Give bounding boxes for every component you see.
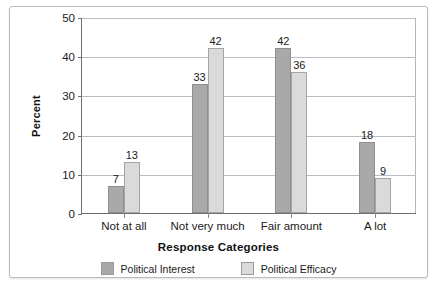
x-axis-title: Response Categories [10, 241, 427, 253]
x-axis-category-label: Not at all [101, 220, 146, 232]
y-axis-tick-label: 0 [69, 208, 75, 220]
y-axis-tick-mark [78, 136, 82, 137]
bar-value-label: 18 [361, 129, 373, 141]
y-axis-tick-mark [78, 214, 82, 215]
y-axis-title: Percent [30, 95, 42, 137]
legend-item[interactable]: Political Efficacy [241, 262, 337, 275]
bar-group: 713Not at all [108, 18, 140, 213]
bar-value-label: 9 [380, 165, 386, 177]
bar[interactable]: 42 [275, 48, 291, 213]
plot-area: 01020304050 713Not at all3342Not very mu… [81, 18, 416, 214]
bar-value-label: 36 [293, 59, 305, 71]
legend-label: Political Efficacy [261, 263, 337, 275]
bar[interactable]: 18 [359, 142, 375, 213]
x-axis-category-label: Not very much [171, 220, 245, 232]
y-axis-tick-mark [78, 175, 82, 176]
x-axis-tick-mark [208, 213, 209, 218]
bar-group: 4236Fair amount [275, 18, 307, 213]
figure-frame: Percent 01020304050 713Not at all3342Not… [9, 6, 428, 278]
x-axis-category-label: A lot [364, 220, 386, 232]
y-axis-tick-mark [78, 96, 82, 97]
legend-item[interactable]: Political Interest [101, 262, 195, 275]
bar[interactable]: 13 [124, 162, 140, 213]
bar[interactable]: 36 [291, 72, 307, 213]
y-axis-tick-label: 20 [62, 130, 75, 142]
y-axis-tick-label: 50 [62, 12, 75, 24]
x-axis-tick-mark [124, 213, 125, 218]
plot-right-border [415, 18, 416, 213]
y-axis-tick-label: 40 [62, 51, 75, 63]
bar-value-label: 13 [126, 149, 138, 161]
legend-swatch [101, 262, 114, 275]
bar[interactable]: 9 [375, 178, 391, 213]
bar[interactable]: 42 [208, 48, 224, 213]
bar[interactable]: 33 [192, 84, 208, 213]
bar-value-label: 42 [210, 35, 222, 47]
y-axis-tick-label: 30 [62, 90, 75, 102]
legend-swatch [241, 262, 254, 275]
bar-value-label: 33 [194, 71, 206, 83]
x-axis-tick-mark [291, 213, 292, 218]
x-axis-tick-mark [375, 213, 376, 218]
bar-group: 3342Not very much [192, 18, 224, 213]
legend-label: Political Interest [121, 263, 195, 275]
bar[interactable]: 7 [108, 186, 124, 213]
y-axis-tick-mark [78, 18, 82, 19]
bar-value-label: 7 [113, 173, 119, 185]
chart-legend: Political InterestPolitical Efficacy [10, 262, 427, 275]
x-axis-category-label: Fair amount [261, 220, 322, 232]
y-axis-tick-label: 10 [62, 169, 75, 181]
y-axis-tick-mark [78, 57, 82, 58]
bar-group: 189A lot [359, 18, 391, 213]
bar-value-label: 42 [277, 35, 289, 47]
